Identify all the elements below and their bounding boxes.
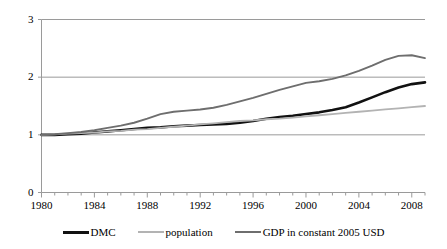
- dmc-line-swatch: [63, 231, 89, 234]
- y-tick-label-3: 3: [20, 14, 34, 25]
- x-tick-label-1996: 1996: [233, 200, 273, 211]
- legend-item-population[interactable]: population: [138, 226, 213, 238]
- legend-label-gdp: GDP in constant 2005 USD: [263, 226, 385, 238]
- y-tick-label-0: 0: [20, 187, 34, 198]
- y-tick-label-1: 1: [20, 129, 34, 140]
- y-tick-label-2: 2: [20, 71, 34, 82]
- x-tick-label-2004: 2004: [339, 200, 379, 211]
- x-axis-minor-ticks: [42, 193, 426, 198]
- x-tick-label-2000: 2000: [286, 200, 326, 211]
- gridlines: [42, 20, 426, 135]
- chart-legend: DMC population GDP in constant 2005 USD: [0, 222, 447, 242]
- population-line-swatch: [138, 231, 164, 233]
- series-line-population: [42, 106, 426, 135]
- axis-lines: [38, 20, 425, 193]
- x-tick-label-1988: 1988: [127, 200, 167, 211]
- x-tick-label-2008: 2008: [392, 200, 432, 211]
- legend-item-gdp[interactable]: GDP in constant 2005 USD: [235, 226, 385, 238]
- x-tick-label-1984: 1984: [74, 200, 114, 211]
- chart-figure: 3210 19801984198819921996200020042008 DM…: [0, 0, 447, 249]
- data-series-group: [42, 55, 426, 135]
- gdp-line-swatch: [235, 231, 261, 233]
- series-line-dmc: [42, 82, 426, 134]
- x-tick-label-1980: 1980: [22, 200, 62, 211]
- legend-label-population: population: [166, 226, 213, 238]
- chart-plot-area: [0, 0, 447, 249]
- legend-label-dmc: DMC: [91, 226, 116, 238]
- legend-item-dmc[interactable]: DMC: [63, 226, 116, 238]
- x-tick-label-1992: 1992: [180, 200, 220, 211]
